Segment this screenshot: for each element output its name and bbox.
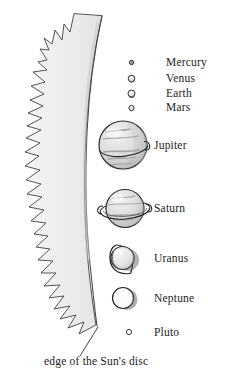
label-earth: Earth bbox=[166, 88, 192, 100]
planet-pluto bbox=[126, 329, 131, 334]
label-neptune: Neptune bbox=[154, 293, 194, 305]
label-mercury: Mercury bbox=[166, 57, 207, 69]
planet-venus bbox=[128, 75, 135, 82]
label-mars: Mars bbox=[166, 102, 190, 114]
planet-earth bbox=[128, 90, 135, 97]
label-pluto: Pluto bbox=[154, 327, 179, 339]
planet-jupiter bbox=[99, 121, 150, 169]
figure-caption: edge of the Sun's disc bbox=[44, 356, 148, 368]
label-venus: Venus bbox=[166, 73, 195, 85]
label-uranus: Uranus bbox=[154, 253, 188, 265]
planet-mercury bbox=[129, 60, 133, 64]
planet-mars bbox=[129, 105, 134, 110]
planet-size-figure: Mercury Venus Earth Mars Jupiter Saturn … bbox=[0, 0, 227, 376]
planet-uranus bbox=[110, 245, 139, 274]
sun-disc-edge bbox=[25, 14, 102, 334]
label-jupiter: Jupiter bbox=[154, 140, 187, 152]
planet-neptune bbox=[113, 288, 138, 311]
label-saturn: Saturn bbox=[154, 203, 185, 215]
planet-saturn bbox=[98, 190, 152, 228]
